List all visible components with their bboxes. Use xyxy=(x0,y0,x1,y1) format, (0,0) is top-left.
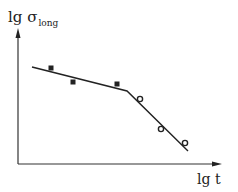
circle-marker-icon xyxy=(182,140,187,145)
x-axis-label: lg t xyxy=(197,171,221,187)
x-axis-arrow-icon xyxy=(212,162,222,167)
circle-marker-icon xyxy=(137,96,142,101)
circle-marker-icon xyxy=(158,126,163,131)
star-marker-icon xyxy=(49,66,54,71)
circle-markers xyxy=(137,96,187,145)
fit-line xyxy=(32,67,188,151)
star-marker-icon xyxy=(71,80,76,85)
y-axis-label: lg σlong xyxy=(8,8,59,28)
y-axis-arrow-icon xyxy=(16,28,21,38)
chart: lg σlong lg t xyxy=(0,0,238,192)
star-markers xyxy=(49,66,120,87)
star-marker-icon xyxy=(115,82,120,87)
